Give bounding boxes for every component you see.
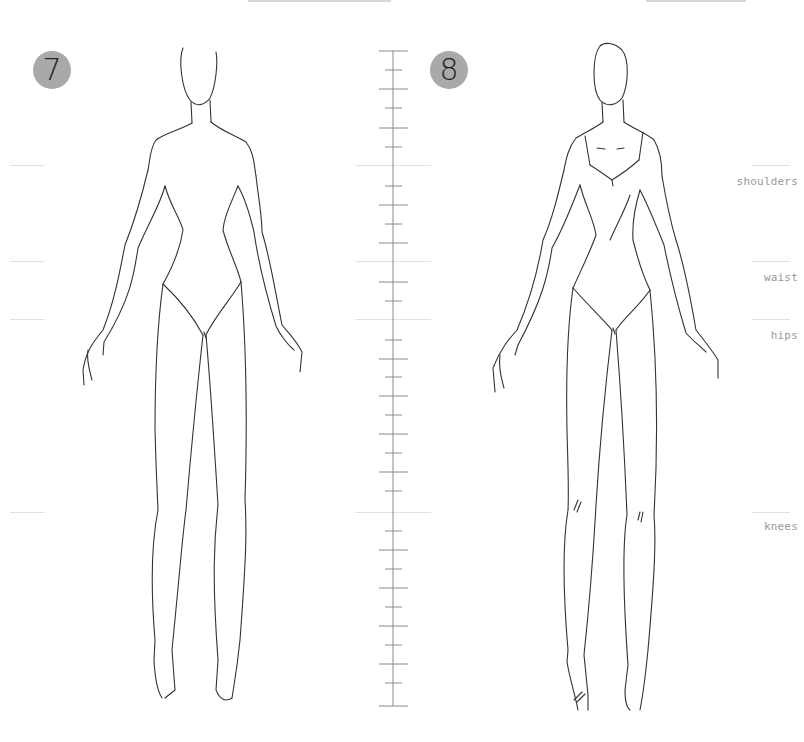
croquis-figure-8 — [493, 43, 718, 710]
fashion-croquis-template-page: shoulders waist hips knees 7 8 — [0, 0, 804, 742]
croquis-drawings — [0, 0, 804, 742]
vertical-ruler — [379, 51, 408, 706]
croquis-figure-7 — [83, 48, 302, 700]
